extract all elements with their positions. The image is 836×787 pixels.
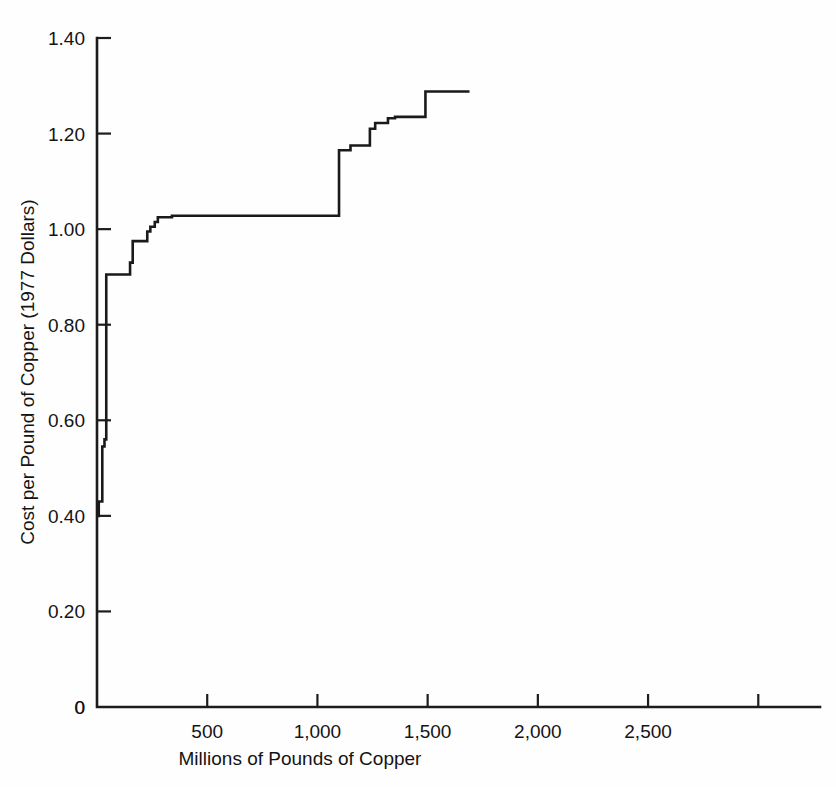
- y-axis-title: Cost per Pound of Copper (1977 Dollars): [17, 199, 38, 544]
- x-axis-tick-labels: 05001,0001,5002,0002,500: [74, 697, 671, 742]
- x-tick-label: 1,500: [404, 721, 452, 742]
- y-axis-tick-marks: [97, 38, 111, 611]
- y-tick-label: 0.80: [48, 315, 85, 336]
- copper-supply-step-chart: 00.200.400.600.801.001.201.40 05001,0001…: [0, 0, 836, 787]
- x-axis-tick-marks: [207, 694, 758, 707]
- x-tick-label: 0: [74, 697, 85, 718]
- y-tick-label: 0.20: [48, 601, 85, 622]
- x-tick-label: 1,000: [294, 721, 342, 742]
- axis-lines: [97, 38, 820, 707]
- axes-group: [97, 38, 820, 707]
- y-tick-label: 1.00: [48, 219, 85, 240]
- y-tick-label: 0.60: [48, 410, 85, 431]
- y-tick-label: 1.40: [48, 28, 85, 49]
- x-tick-label: 2,500: [624, 721, 672, 742]
- x-tick-label: 500: [191, 721, 223, 742]
- y-axis-tick-labels: 00.200.400.600.801.001.201.40: [48, 28, 85, 718]
- x-axis-title: Millions of Pounds of Copper: [179, 748, 423, 769]
- y-tick-label: 1.20: [48, 124, 85, 145]
- figure-container: 00.200.400.600.801.001.201.40 05001,0001…: [0, 0, 836, 787]
- x-tick-label: 2,000: [514, 721, 562, 742]
- y-tick-label: 0.40: [48, 506, 85, 527]
- supply-curve-line: [97, 92, 470, 516]
